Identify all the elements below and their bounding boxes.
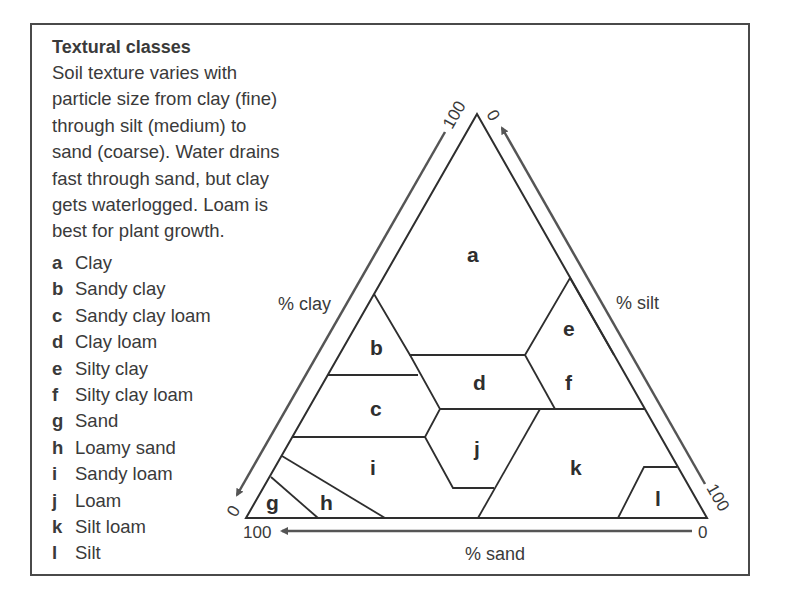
boundary-b-c-right [410,355,440,437]
region-label-l: l [655,487,661,510]
region-label-j: j [473,437,480,460]
region-label-h: h [320,491,333,514]
boundary-l [618,467,677,518]
region-label-k: k [570,456,582,479]
region-label-b: b [370,336,383,359]
boundary-j-left [425,437,494,488]
soil-texture-triangle: a b c d e f g h i j k l % clay % silt % … [0,0,786,603]
silt-axis-label: % silt [616,293,659,313]
region-boundaries [271,278,677,518]
clay-tick-100: 100 [439,98,470,132]
region-label-d: d [473,371,486,394]
clay-axis-label: % clay [278,294,331,314]
silt-axis-arrow [502,128,705,484]
silt-tick-100: 100 [703,481,734,515]
region-label-a: a [467,243,479,266]
region-label-i: i [370,456,376,479]
region-label-c: c [370,397,382,420]
region-label-e: e [563,317,575,340]
region-label-f: f [565,371,573,394]
sand-axis-label: % sand [465,544,525,564]
boundary-d-f [525,355,555,409]
sand-tick-0: 0 [698,523,707,542]
region-label-g: g [266,491,279,514]
sand-tick-100: 100 [243,523,271,542]
silt-tick-0: 0 [483,107,504,125]
boundary-j-k [478,409,540,518]
clay-axis-arrow [237,132,445,495]
clay-tick-0: 0 [223,502,244,520]
